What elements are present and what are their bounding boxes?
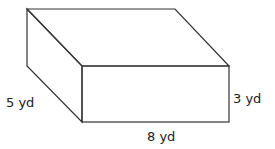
top-face xyxy=(27,9,229,66)
prism-diagram: 5 yd 3 yd 8 yd xyxy=(0,0,275,149)
prism-edges xyxy=(27,9,229,122)
length-label: 8 yd xyxy=(147,129,175,144)
height-label: 3 yd xyxy=(233,91,261,106)
depth-label: 5 yd xyxy=(6,95,34,110)
left-face xyxy=(27,9,82,122)
front-face xyxy=(82,66,229,122)
